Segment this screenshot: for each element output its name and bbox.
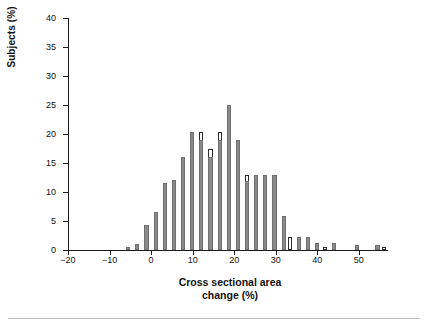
bar-filled-43.5 bbox=[332, 243, 336, 250]
bar-filled-18.2 bbox=[227, 105, 231, 250]
bar-filled-31.4 bbox=[282, 216, 286, 250]
bar-filled-29.2 bbox=[272, 175, 276, 250]
bar-filled-13.8 bbox=[208, 157, 212, 250]
bar-filled-16 bbox=[218, 140, 222, 250]
bar-filled-54 bbox=[375, 245, 379, 250]
x-axis-title: Cross sectional area change (%) bbox=[148, 276, 312, 302]
bar-open-55.5 bbox=[382, 247, 386, 250]
bar-filled-39.4 bbox=[315, 243, 319, 250]
figure-container: 0510152025303540 −20−1001020304050 Subje… bbox=[0, 0, 428, 325]
bar-open-41.4 bbox=[323, 247, 327, 250]
bar-filled-49 bbox=[355, 245, 359, 250]
bar-filled-7.2 bbox=[181, 157, 185, 250]
bar-filled-27 bbox=[263, 175, 267, 250]
bar-filled--6 bbox=[126, 247, 130, 250]
bar-open-33 bbox=[288, 237, 292, 250]
bar-filled-0.6 bbox=[154, 212, 158, 250]
bar-filled-37.2 bbox=[306, 237, 310, 250]
bar-filled--3.8 bbox=[135, 244, 139, 250]
x-axis-title-line2: change (%) bbox=[148, 289, 312, 302]
bar-filled-20.4 bbox=[236, 140, 240, 250]
bar-filled--1.6 bbox=[144, 225, 148, 250]
bar-filled-2.8 bbox=[163, 183, 167, 250]
bar-filled-35 bbox=[297, 237, 301, 250]
bar-filled-9.4 bbox=[190, 132, 194, 250]
bar-filled-11.6 bbox=[199, 140, 203, 250]
x-axis-title-line1: Cross sectional area bbox=[148, 276, 312, 289]
bar-filled-24.8 bbox=[254, 175, 258, 250]
bottom-divider bbox=[8, 318, 420, 319]
bar-filled-22.6 bbox=[245, 181, 249, 250]
y-axis-title: Subjects (%) bbox=[6, 0, 17, 92]
bar-filled-5 bbox=[172, 180, 176, 250]
